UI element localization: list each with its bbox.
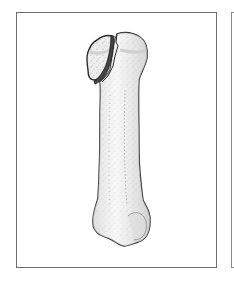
bone-illustration bbox=[0, 0, 234, 283]
